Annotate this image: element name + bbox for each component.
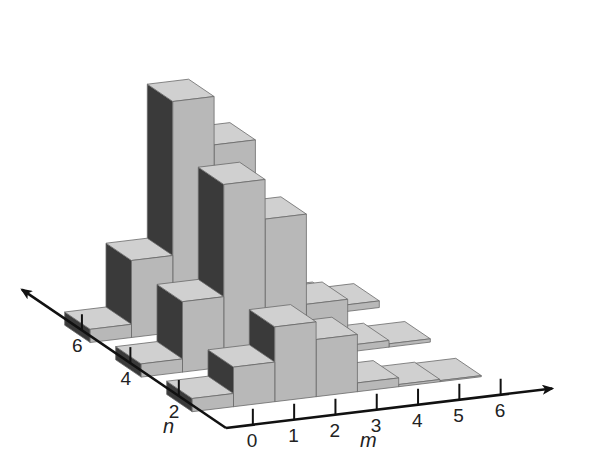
m-tick-label: 6 <box>495 400 506 421</box>
bar-front-face <box>316 335 357 397</box>
bar-front-face <box>275 322 316 402</box>
n-tick-label: 6 <box>72 335 83 356</box>
m-tick-label: 2 <box>329 420 340 441</box>
m-tick-label: 0 <box>247 430 258 451</box>
m-tick-label: 5 <box>453 405 464 426</box>
m-tick-label: 1 <box>288 425 299 446</box>
n-axis-label: n <box>163 415 174 437</box>
m-axis-label: m <box>360 429 377 451</box>
m-tick-label: 4 <box>412 410 423 431</box>
n-tick-label: 4 <box>120 368 131 389</box>
bar-front-face <box>234 362 275 407</box>
bar3d-chart: 0123456 246 m n <box>0 0 589 468</box>
